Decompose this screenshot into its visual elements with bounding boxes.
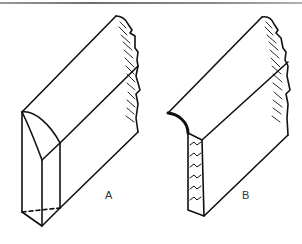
figure-a-board [22,16,140,226]
figure-a-end-grain-hatch [119,22,135,122]
figure-b-board [168,17,290,216]
figure-a-hidden-edge [22,208,60,212]
figure-label-b: B [242,189,249,201]
figure-label-a: A [105,189,112,201]
diagram-canvas [0,0,302,244]
figure-b-end-grain-hatch [190,142,201,200]
